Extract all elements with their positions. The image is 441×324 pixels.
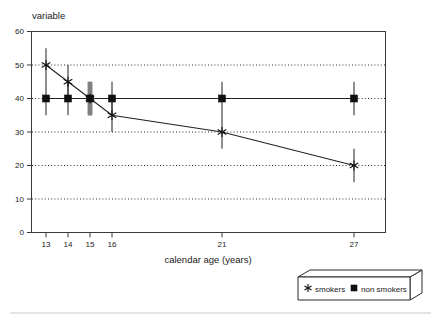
chart-figure: variable 0 10 20 30 40 50 60 (0, 0, 441, 324)
marker-non-smokers-13 (43, 95, 50, 102)
marker-non-smokers-21 (219, 95, 226, 102)
ytick-label-10: 10 (15, 195, 24, 204)
ytick-label-50: 50 (15, 61, 24, 70)
legend[interactable]: smokers non smokers (298, 270, 422, 300)
ytick-label-30: 30 (15, 128, 24, 137)
xtick-label-15: 15 (86, 240, 95, 249)
marker-non-smokers-16 (109, 95, 116, 102)
chart-svg: variable 0 10 20 30 40 50 60 (0, 0, 441, 324)
ytick-label-0: 0 (20, 228, 25, 237)
ytick-label-60: 60 (15, 27, 24, 36)
xtick-label-27: 27 (350, 240, 359, 249)
legend-non-smokers-label: non smokers (361, 285, 407, 294)
y-axis-title: variable (32, 10, 65, 21)
xtick-label-13: 13 (42, 240, 51, 249)
ytick-label-20: 20 (15, 161, 24, 170)
x-axis-title: calendar age (years) (164, 254, 251, 265)
xtick-label-14: 14 (64, 240, 73, 249)
xtick-label-16: 16 (108, 240, 117, 249)
xtick-label-21: 21 (218, 240, 227, 249)
ytick-label-40: 40 (15, 94, 24, 103)
legend-smokers-label: smokers (315, 285, 345, 294)
legend-box-top-face (298, 270, 422, 277)
marker-non-smokers-14 (65, 95, 72, 102)
legend-non-smokers-marker-icon (351, 285, 357, 291)
marker-non-smokers-27 (351, 95, 358, 102)
